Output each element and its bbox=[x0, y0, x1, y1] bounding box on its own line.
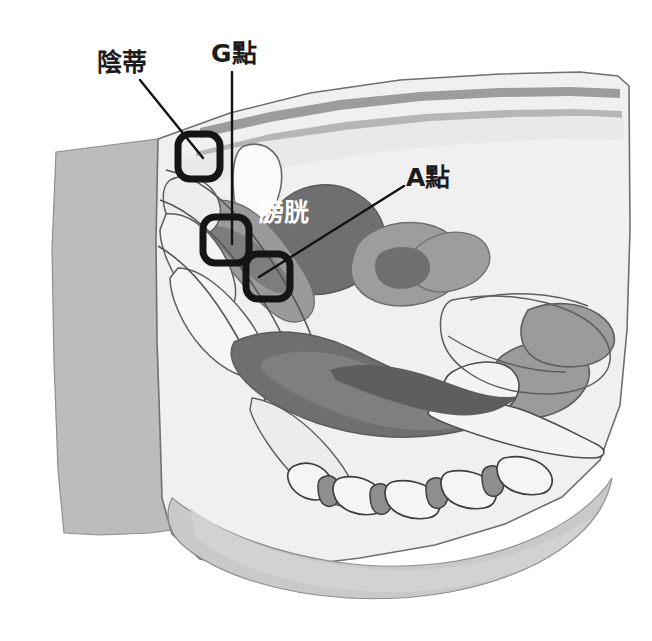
thigh-block-left bbox=[52, 139, 172, 535]
anatomy-shapes bbox=[52, 72, 630, 599]
uterine-cavity bbox=[375, 247, 430, 289]
label-clitoris: 陰蒂 bbox=[97, 50, 147, 75]
label-g-spot: G點 bbox=[211, 41, 257, 66]
label-a-spot: A點 bbox=[406, 165, 450, 190]
illustration-canvas: 陰蒂 G點 A點 膀胱 bbox=[0, 0, 652, 641]
label-bladder: 膀胱 bbox=[259, 200, 309, 225]
pelvis-sagittal-diagram bbox=[0, 0, 652, 641]
